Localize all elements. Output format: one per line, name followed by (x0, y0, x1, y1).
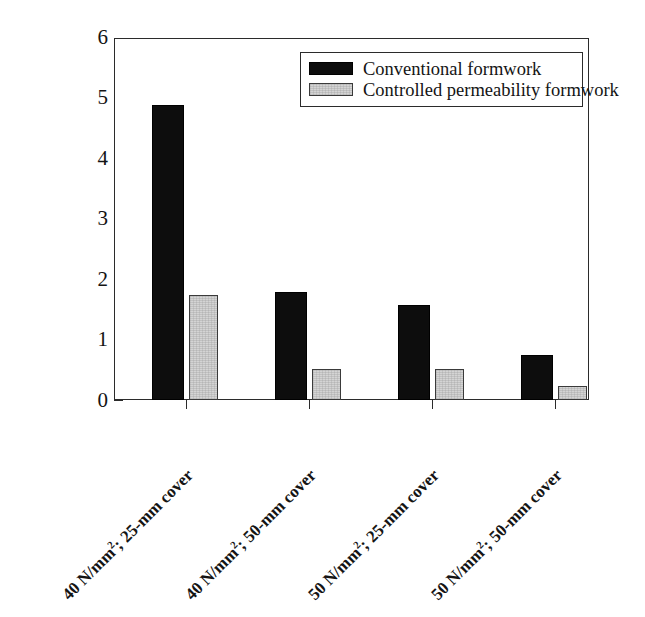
bar-cpf-g3 (435, 369, 464, 400)
y-tick-label-1: 1 (78, 329, 108, 350)
x-tick-mark-4 (555, 400, 556, 409)
x-category-label-4-post: ; 50-mm cover (478, 466, 566, 554)
x-tick-mark-1 (186, 400, 187, 409)
bar-conventional-g2 (275, 292, 307, 400)
bar-conventional-g1 (152, 105, 184, 400)
y-axis-tick-labels: 6 5 4 3 2 1 0 (70, 0, 108, 617)
bar-conventional-g3 (398, 305, 430, 400)
legend-label-conventional: Conventional formwork (363, 59, 541, 79)
y-tick-mark-0 (114, 400, 123, 401)
bar-cpf-g4 (558, 386, 587, 400)
x-category-label-2-pre: 40 N/mm (181, 543, 242, 604)
x-category-label-2: 40 N/mm2; 50-mm cover (181, 465, 320, 604)
bar-conventional-g4 (521, 355, 553, 400)
x-tick-mark-3 (432, 400, 433, 409)
x-category-label-1-post: ; 25-mm cover (109, 466, 197, 554)
x-category-label-3-pre: 50 N/mm (304, 543, 365, 604)
legend-item-cpf: Controlled permeability formwork (309, 79, 574, 100)
x-tick-mark-2 (309, 400, 310, 409)
x-category-label-3-post: ; 25-mm cover (355, 466, 443, 554)
bar-cpf-g1 (189, 295, 218, 400)
chart-legend: Conventional formwork Controlled permeab… (300, 52, 583, 107)
x-category-label-4: 50 N/mm2; 50-mm cover (427, 465, 566, 604)
legend-item-conventional: Conventional formwork (309, 58, 574, 79)
legend-swatch-cpf-icon (309, 83, 353, 96)
chart-figure: Chloride content (% by mass of cement) 6… (0, 0, 645, 617)
y-tick-label-0: 0 (78, 390, 108, 411)
x-category-label-4-pre: 50 N/mm (427, 543, 488, 604)
y-tick-label-2: 2 (78, 269, 108, 290)
bar-cpf-g2 (312, 369, 341, 400)
y-tick-label-3: 3 (78, 208, 108, 229)
legend-label-cpf: Controlled permeability formwork (363, 80, 619, 100)
x-category-label-3: 50 N/mm2; 25-mm cover (304, 465, 443, 604)
y-tick-label-4: 4 (78, 148, 108, 169)
legend-swatch-conventional-icon (309, 62, 353, 75)
x-category-label-2-post: ; 50-mm cover (232, 466, 320, 554)
y-tick-label-6: 6 (78, 27, 108, 48)
y-tick-label-5: 5 (78, 87, 108, 108)
